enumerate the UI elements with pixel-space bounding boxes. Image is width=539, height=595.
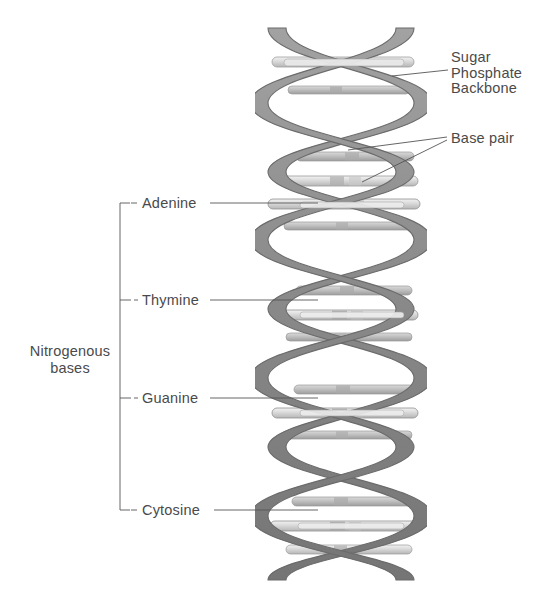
sugar-phosphate-backbone-line3: Backbone: [451, 81, 522, 97]
base-pair-rung: [284, 222, 412, 230]
nitrogenous-bases-label: Nitrogenous bases: [22, 343, 118, 377]
base-pair-rung: [284, 59, 404, 66]
nitrogenous-bases-line2: bases: [22, 360, 118, 377]
sugar-phosphate-backbone-label: Sugar Phosphate Backbone: [451, 50, 522, 97]
base-pair-rung: [300, 312, 404, 318]
base-pair-rung: [300, 410, 404, 416]
cytosine-label: Cytosine: [142, 502, 200, 518]
guanine-label: Guanine: [142, 390, 198, 406]
base-pair-label: Base pair: [451, 130, 514, 146]
nitrogenous-bases-line1: Nitrogenous: [22, 343, 118, 360]
adenine-label: Adenine: [142, 195, 197, 211]
sugar-phosphate-backbone-line2: Phosphate: [451, 66, 522, 82]
base-pair-rung: [294, 385, 414, 394]
base-pair-rung: [298, 523, 404, 529]
sugar-phosphate-backbone-line1: Sugar: [451, 50, 522, 66]
thymine-label: Thymine: [142, 292, 199, 308]
base-pair-rung: [288, 86, 410, 94]
